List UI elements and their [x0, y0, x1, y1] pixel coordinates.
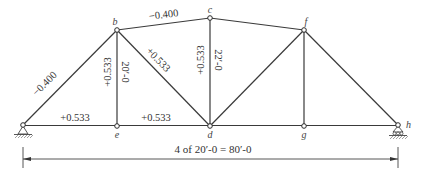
node-label-f: f: [305, 16, 309, 27]
node-h: [396, 123, 401, 128]
member-fh: [304, 30, 398, 125]
force-label-bd: +0.533: [144, 45, 172, 74]
force-labels: −0.400 −0.400 +0.533 +0.533 +0.533 20′-0…: [30, 7, 224, 123]
node-label-d: d: [208, 129, 214, 140]
node-a: [21, 123, 26, 128]
span-dimension: 4 of 20′-0 = 80′-0: [23, 143, 398, 168]
node-b: [115, 28, 120, 33]
arrow-left-icon: [23, 157, 31, 161]
truss-diagram: b c f e d g h −0.400 −0.400 +0.533 +0.53…: [0, 0, 423, 179]
member-df: [210, 30, 304, 126]
node-g: [302, 124, 307, 129]
force-label-bc: −0.400: [148, 7, 179, 22]
node-label-c: c: [208, 4, 213, 15]
left-pin-support: [14, 126, 33, 138]
node-label-g: g: [302, 129, 307, 140]
height-label-be: 20′-0: [120, 61, 131, 83]
height-label-cd: 22′-0: [213, 49, 224, 71]
node-c: [208, 16, 213, 21]
member-cf: [210, 18, 304, 30]
node-f: [302, 28, 307, 33]
node-e: [115, 124, 120, 129]
truss-members: [23, 18, 398, 126]
force-label-ed: +0.533: [141, 112, 171, 123]
node-label-b: b: [113, 16, 118, 27]
dimension-text: 4 of 20′-0 = 80′-0: [174, 143, 252, 155]
force-label-be: +0.533: [102, 57, 113, 87]
node-label-e: e: [115, 129, 120, 140]
node-label-h: h: [406, 119, 411, 130]
arrow-right-icon: [390, 157, 398, 161]
force-label-ae: +0.533: [60, 112, 90, 123]
node-d: [208, 124, 213, 129]
force-label-cd: +0.533: [195, 45, 206, 75]
